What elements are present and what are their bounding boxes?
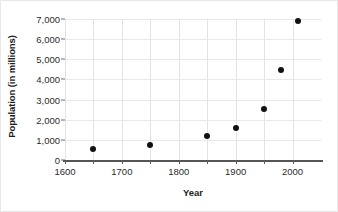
data-point [147,142,153,148]
population-scatter-chart: Population (in millions) 01,0002,0003,00… [0,0,338,212]
x-axis-tick-label: 2000 [282,166,303,177]
y-axis-tick-label: 0 [55,155,60,166]
gridline-vertical [264,19,265,160]
y-axis-tick-label: 2,000 [36,114,60,125]
data-point [204,133,210,139]
x-axis-tick-mark [65,160,66,164]
x-axis-title: Year [65,187,321,198]
gridline-horizontal [65,39,321,40]
x-axis-tick-label: 1700 [111,166,132,177]
y-axis-title-text: Population (in millions) [6,35,17,138]
gridline-vertical [236,19,237,160]
x-axis-tick-mark [122,160,123,164]
gridline-horizontal [65,140,321,141]
gridline-horizontal [65,19,321,20]
x-axis-tick-mark [179,160,180,164]
gridline-vertical [93,19,94,160]
x-axis-tick-mark [207,160,208,164]
x-axis-tick-mark [293,160,294,164]
gridline-vertical [150,19,151,160]
y-axis-tick-label: 5,000 [36,54,60,65]
x-axis-tick-mark [93,160,94,164]
data-point [261,106,267,112]
y-axis-tick-labels: 01,0002,0003,0004,0005,0006,0007,000 [21,1,65,171]
x-axis-tick-mark [150,160,151,164]
gridline-vertical [293,19,294,160]
x-axis-tick-label: 1800 [168,166,189,177]
y-axis-tick-label: 3,000 [36,94,60,105]
y-axis-tick-label: 7,000 [36,14,60,25]
gridline-vertical [65,19,66,160]
data-point [90,146,96,152]
gridline-horizontal [65,100,321,101]
gridline-horizontal [65,79,321,80]
x-axis-tick-mark [236,160,237,164]
gridline-vertical [179,19,180,160]
x-axis-tick-label: 1900 [225,166,246,177]
x-axis-tick-labels: 16001700180019002000 [65,160,321,190]
gridline-horizontal [65,59,321,60]
y-axis-tick-label: 1,000 [36,134,60,145]
plot-area [65,19,321,160]
data-point [295,18,301,24]
gridline-vertical [122,19,123,160]
y-axis-tick-label: 6,000 [36,34,60,45]
x-axis-tick-label: 1600 [54,166,75,177]
gridline-horizontal [65,120,321,121]
y-axis-title: Population (in millions) [1,1,21,171]
y-axis-tick-label: 4,000 [36,74,60,85]
data-point [278,67,284,73]
data-point [233,125,239,131]
x-axis-tick-mark [264,160,265,164]
